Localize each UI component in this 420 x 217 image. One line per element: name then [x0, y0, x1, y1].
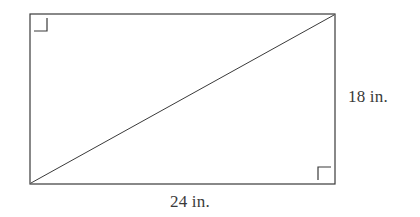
- right-angle-marker-top-left-icon: [34, 18, 47, 31]
- geometry-figure: 18 in. 24 in.: [0, 0, 420, 217]
- right-angle-marker-bottom-right-icon: [318, 167, 331, 180]
- diagonal-line: [31, 15, 334, 183]
- height-dimension-label: 18 in.: [348, 88, 388, 105]
- rectangle-diagram-svg: [0, 0, 420, 217]
- width-dimension-label: 24 in.: [170, 193, 210, 210]
